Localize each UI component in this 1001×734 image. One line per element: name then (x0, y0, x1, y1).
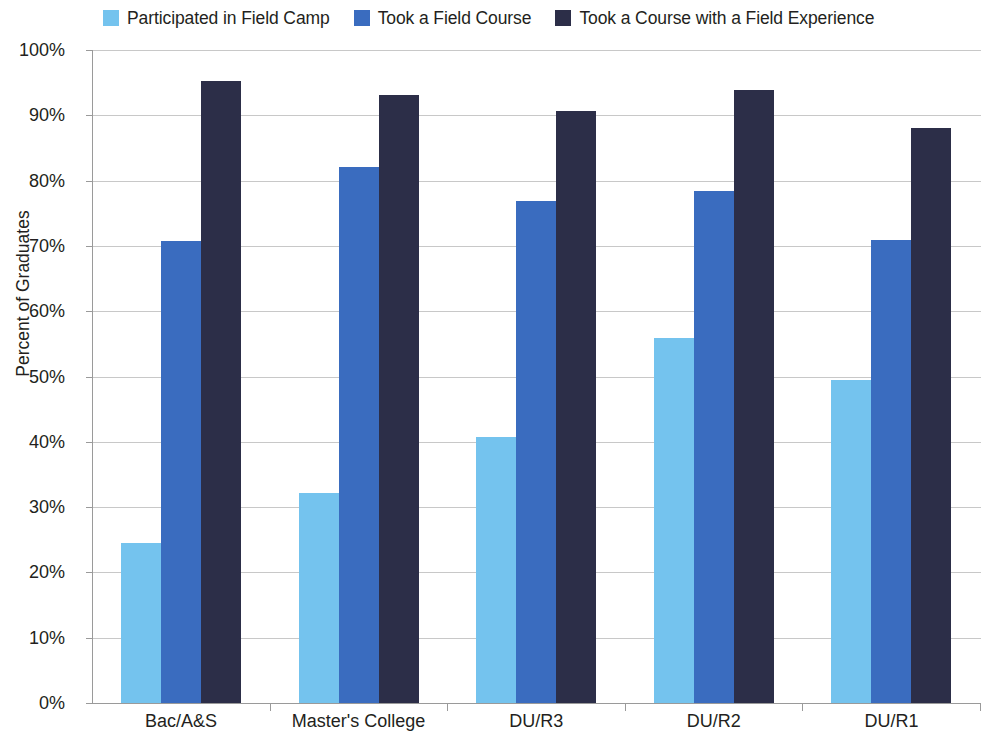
y-axis-tick-label: 10% (0, 627, 65, 648)
x-axis-tick-label: DU/R2 (687, 711, 741, 732)
y-axis-tick-label: 60% (0, 301, 65, 322)
bar (654, 338, 694, 703)
x-axis-tick-label: Bac/A&S (145, 711, 217, 732)
y-axis-tick-mark (86, 311, 93, 312)
bar-group (93, 50, 271, 703)
y-axis-tick-mark (86, 377, 93, 378)
bar (379, 95, 419, 703)
bar (694, 191, 734, 703)
y-axis-tick-mark (86, 703, 93, 704)
x-axis-tick-label: DU/R3 (509, 711, 563, 732)
bar (299, 493, 339, 703)
y-axis-tick-label: 80% (0, 170, 65, 191)
bar (734, 90, 774, 703)
bar (831, 380, 871, 703)
bar (121, 543, 161, 703)
bar (476, 437, 516, 703)
y-axis-tick-label: 70% (0, 235, 65, 256)
bar (871, 240, 911, 703)
y-axis-tick-mark (86, 638, 93, 639)
bar-group (626, 50, 804, 703)
x-axis-tick-mark (447, 703, 448, 711)
bar (161, 241, 201, 703)
bar (339, 167, 379, 703)
y-axis-tick-mark (86, 115, 93, 116)
y-axis-tick-mark (86, 442, 93, 443)
y-axis-tick-mark (86, 572, 93, 573)
x-axis-tick-mark (802, 703, 803, 711)
chart-area: Percent of Graduates 0%10%20%30%40%50%60… (0, 0, 1001, 734)
y-axis-tick-label: 20% (0, 562, 65, 583)
bar (911, 128, 951, 703)
x-axis-tick-mark (625, 703, 626, 711)
y-axis-tick-mark (86, 246, 93, 247)
y-axis-tick-label: 0% (0, 693, 65, 714)
bar (201, 81, 241, 703)
y-axis-tick-label: 30% (0, 497, 65, 518)
bar-group (448, 50, 626, 703)
bar-group (271, 50, 449, 703)
bar (556, 111, 596, 703)
bar-group (803, 50, 981, 703)
bar (516, 201, 556, 703)
y-axis-tick-mark (86, 50, 93, 51)
x-axis-tick-label: Master's College (292, 711, 426, 732)
y-axis-tick-label: 50% (0, 366, 65, 387)
y-axis-tick-label: 40% (0, 431, 65, 452)
x-axis-tick-mark (270, 703, 271, 711)
x-axis-tick-label: DU/R1 (864, 711, 918, 732)
x-axis-tick-mark (980, 703, 981, 711)
y-axis-tick-mark (86, 507, 93, 508)
plot-area: 0%10%20%30%40%50%60%70%80%90%100%Bac/A&S… (92, 50, 981, 704)
y-axis-tick-mark (86, 181, 93, 182)
y-axis-tick-label: 100% (0, 40, 65, 61)
y-axis-tick-label: 90% (0, 105, 65, 126)
